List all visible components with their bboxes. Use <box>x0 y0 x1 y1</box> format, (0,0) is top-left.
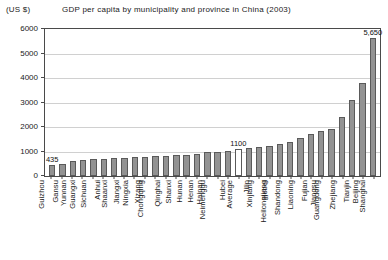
bar-series: 43511005,650 <box>45 29 380 176</box>
bar[interactable] <box>70 161 76 176</box>
bar-slot <box>99 29 109 176</box>
bar[interactable] <box>142 157 148 176</box>
bar-slot <box>78 29 88 176</box>
bar[interactable] <box>101 159 107 176</box>
chart-container: (US $) GDP per capita by municipality an… <box>0 0 388 260</box>
bar[interactable] <box>359 83 365 176</box>
bar[interactable] <box>163 156 169 176</box>
x-axis-tick-mark <box>82 176 83 179</box>
bar[interactable] <box>111 158 117 176</box>
bar[interactable] <box>308 134 314 176</box>
y-axis-tick-label: 3000 <box>0 98 38 107</box>
x-axis-tick-label: Hunan <box>175 180 184 203</box>
x-axis-tick-mark <box>51 176 52 179</box>
x-axis-tick-label: Gansu <box>50 180 59 203</box>
bar[interactable] <box>287 142 293 176</box>
bar-slot <box>326 29 336 176</box>
y-axis-tick-mark <box>41 151 44 152</box>
x-axis-tick-label: Liaoning <box>286 180 295 209</box>
bar[interactable] <box>173 155 179 176</box>
bar-slot <box>244 29 254 176</box>
x-axis-tick-mark <box>259 176 260 179</box>
y-axis-tick-mark <box>41 28 44 29</box>
x-axis-tick-mark <box>321 176 322 179</box>
x-axis-tick-label: Zhejiang <box>328 180 337 210</box>
x-axis-tick-mark <box>113 176 114 179</box>
bar[interactable] <box>49 165 55 176</box>
bar-slot <box>109 29 119 176</box>
x-axis-tick-mark <box>155 176 156 179</box>
bar-slot: 435 <box>47 29 57 176</box>
x-axis-tick-label: Henan <box>186 180 195 203</box>
y-axis-tick-mark <box>41 77 44 78</box>
bar[interactable] <box>214 152 220 177</box>
bar-slot <box>57 29 67 176</box>
bar-slot <box>347 29 357 176</box>
x-axis-tick-label: Guangxi <box>68 180 77 209</box>
bar[interactable] <box>90 159 96 176</box>
bar[interactable] <box>339 117 345 176</box>
x-axis-tick-mark <box>124 176 125 179</box>
bar[interactable] <box>235 149 241 176</box>
bar-slot <box>306 29 316 176</box>
x-axis-tick-mark <box>238 176 239 179</box>
x-axis-tick-label: Qinghai <box>152 180 161 207</box>
x-axis-tick-mark <box>186 176 187 179</box>
x-axis-tick-label: Chongqing <box>137 180 146 217</box>
bar[interactable] <box>59 164 65 176</box>
x-axis-tick-mark <box>144 176 145 179</box>
bar-slot <box>275 29 285 176</box>
bar[interactable] <box>246 148 252 176</box>
x-axis-tick-mark <box>103 176 104 179</box>
bar-slot <box>68 29 78 176</box>
bar-slot: 1100 <box>233 29 243 176</box>
x-axis-labels: GuizhouGansuYunnanGuangxiSichuanAnhuiSha… <box>44 179 381 259</box>
y-axis-tick-label: 6000 <box>0 24 38 33</box>
bar[interactable] <box>370 38 376 176</box>
x-axis-tick-label: Guangdong <box>312 180 321 220</box>
bar[interactable] <box>277 144 283 176</box>
bar[interactable] <box>349 100 355 176</box>
bar[interactable] <box>183 155 189 176</box>
bar[interactable] <box>204 152 210 176</box>
x-axis-tick-label: Shanxi <box>164 180 173 204</box>
chart-title: GDP per capita by municipality and provi… <box>62 5 382 14</box>
x-axis-tick-label: Sichuan <box>79 180 88 208</box>
x-axis-tick-mark <box>352 176 353 179</box>
x-axis-tick-mark <box>290 176 291 179</box>
y-axis-tick-label: 4000 <box>0 73 38 82</box>
bar[interactable] <box>194 154 200 176</box>
bar[interactable] <box>318 131 324 176</box>
x-axis-tick-label: Heilongjiang <box>259 180 268 222</box>
x-axis-tick-mark <box>165 176 166 179</box>
x-axis-tick-label: Average <box>224 180 233 209</box>
y-axis-tick-label: 2000 <box>0 122 38 131</box>
bar[interactable] <box>152 156 158 176</box>
x-axis-label-slot: Shanghai <box>369 179 379 259</box>
bar[interactable] <box>80 160 86 176</box>
bar-slot <box>316 29 326 176</box>
bar-slot <box>192 29 202 176</box>
bar-slot <box>357 29 367 176</box>
x-axis-tick-mark <box>92 176 93 179</box>
bar[interactable] <box>225 151 231 176</box>
x-axis-tick-mark <box>228 176 229 179</box>
bar-slot <box>161 29 171 176</box>
x-axis-tick-mark <box>342 176 343 179</box>
plot-area: 43511005,650 <box>44 28 381 177</box>
x-axis-tick-mark <box>134 176 135 179</box>
bar-slot: 5,650 <box>368 29 378 176</box>
bar[interactable] <box>256 147 262 176</box>
x-axis-tick-label: Neimenggu <box>198 180 207 219</box>
bar[interactable] <box>297 138 303 176</box>
bar[interactable] <box>132 157 138 176</box>
bar-slot <box>285 29 295 176</box>
bar-slot <box>119 29 129 176</box>
bar-slot <box>140 29 150 176</box>
bar[interactable] <box>328 129 334 176</box>
bar[interactable] <box>121 158 127 176</box>
y-axis-tick-mark <box>41 126 44 127</box>
x-axis-tick-mark <box>61 176 62 179</box>
x-axis-tick-mark <box>248 176 249 179</box>
bar[interactable] <box>266 146 272 176</box>
